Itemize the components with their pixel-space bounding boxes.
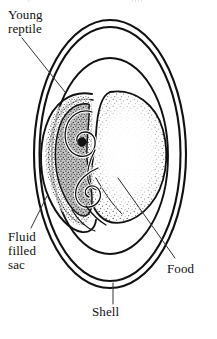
label-food: Food (167, 262, 194, 276)
label-shell: Shell (92, 305, 119, 319)
label-young-reptile: Young reptile (8, 8, 43, 36)
embryo-eye (78, 138, 86, 146)
figure-canvas: y gg (0, 0, 217, 339)
label-fluid-filled-sac: Fluid filled sac (8, 230, 36, 272)
egg-cross-section-diagram (0, 0, 217, 339)
young-reptile-embryo (44, 92, 106, 232)
